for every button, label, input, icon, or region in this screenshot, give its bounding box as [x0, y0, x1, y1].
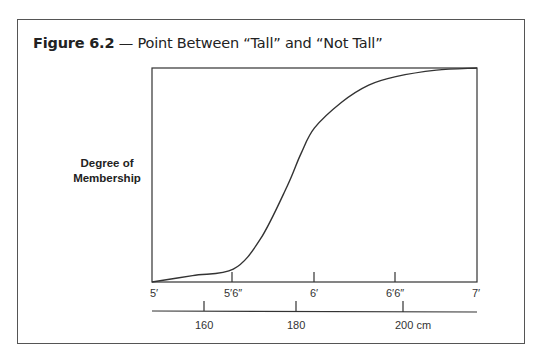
- feet-axis: [232, 272, 395, 282]
- feet-tick-label: 6′6″: [386, 287, 404, 299]
- membership-curve: [152, 68, 477, 282]
- feet-tick-label: 6′: [310, 287, 318, 299]
- cm-tick-label: 180: [287, 319, 305, 331]
- plot-area: [152, 68, 477, 282]
- cm-axis: [152, 301, 477, 312]
- cm-tick-label: 160: [195, 319, 213, 331]
- feet-tick-label: 7′: [472, 287, 480, 299]
- feet-tick-label: 5′6″: [224, 287, 242, 299]
- membership-chart: 5′ 5′6″ 6′ 6′6″ 7′ 160 180 200 cm: [0, 0, 545, 362]
- cm-axis-line: [152, 311, 477, 312]
- cm-tick-label: 200 cm: [395, 319, 431, 331]
- feet-tick-label: 5′: [150, 287, 158, 299]
